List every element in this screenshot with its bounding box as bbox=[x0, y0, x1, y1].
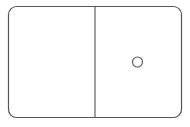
pip-icon bbox=[133, 57, 143, 67]
domino-diagram bbox=[0, 0, 190, 127]
